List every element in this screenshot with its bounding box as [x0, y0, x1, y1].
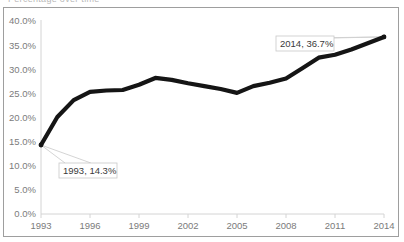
y-axis-tick-label: 25.0%: [9, 88, 36, 99]
data-annotations: 1993, 14.3%2014, 36.7%: [59, 36, 334, 178]
chart-frame: 40.0%35.0%30.0%25.0%20.0%15.0%10.0%5.0%0…: [3, 7, 399, 237]
chart-screenshot: Percentage over time 40.0%35.0%30.0%25.0…: [0, 0, 404, 242]
y-axis-tick-labels: 40.0%35.0%30.0%25.0%20.0%15.0%10.0%5.0%0…: [9, 15, 36, 219]
data-point-marker: [382, 35, 387, 40]
y-axis-tick-label: 10.0%: [9, 160, 36, 171]
x-axis-tick-label: 1993: [30, 220, 51, 231]
annotation-leader-line: [41, 145, 91, 163]
x-axis-tick-label: 2014: [373, 220, 394, 231]
annotation-label: 1993, 14.3%: [63, 165, 117, 176]
x-axis-tick-label: 2005: [226, 220, 247, 231]
y-axis-tick-label: 35.0%: [9, 40, 36, 51]
y-axis-tick-label: 0.0%: [14, 208, 36, 219]
data-series-line: [41, 37, 384, 145]
x-axis-tick-labels: 19931996199920022005200820112014: [30, 220, 394, 231]
y-axis-tick-label: 20.0%: [9, 112, 36, 123]
x-axis-tick-label: 2011: [325, 220, 345, 231]
axis-tick-marks: [41, 214, 384, 218]
y-axis-tick-label: 40.0%: [9, 15, 36, 26]
y-axis-tick-label: 5.0%: [14, 184, 36, 195]
data-point-marker: [39, 143, 44, 148]
y-axis-tick-label: 30.0%: [9, 64, 36, 75]
line-chart: 40.0%35.0%30.0%25.0%20.0%15.0%10.0%5.0%0…: [4, 8, 398, 236]
x-axis-tick-label: 2002: [177, 220, 198, 231]
x-axis-tick-label: 1999: [128, 220, 149, 231]
y-axis-tick-label: 15.0%: [9, 136, 36, 147]
annotation-label: 2014, 36.7%: [280, 38, 334, 49]
clipped-chart-title: Percentage over time: [8, 0, 308, 6]
x-axis-tick-label: 1996: [79, 220, 100, 231]
x-axis-tick-label: 2008: [275, 220, 296, 231]
